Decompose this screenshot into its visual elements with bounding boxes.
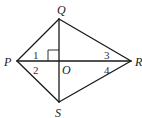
kite-diagram: Q P R S O 1 2 3 4 bbox=[0, 0, 142, 118]
angle-label-1: 1 bbox=[33, 49, 39, 61]
vertex-label-s: S bbox=[55, 106, 61, 118]
center-label-o: O bbox=[62, 63, 71, 77]
angle-label-2: 2 bbox=[33, 64, 39, 76]
vertex-label-p: P bbox=[3, 55, 12, 69]
segment-qr bbox=[59, 19, 131, 61]
vertex-label-q: Q bbox=[57, 3, 66, 17]
vertex-label-r: R bbox=[134, 55, 142, 69]
angle-label-3: 3 bbox=[104, 49, 110, 61]
angle-label-4: 4 bbox=[104, 64, 110, 76]
right-angle-marker bbox=[48, 50, 59, 61]
